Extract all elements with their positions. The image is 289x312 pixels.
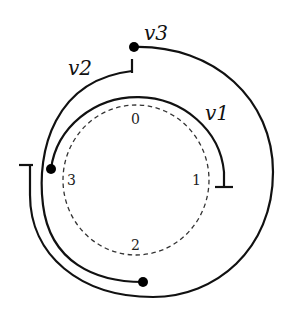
v3-start-dot bbox=[129, 42, 139, 52]
v3-label: v3 bbox=[144, 21, 168, 45]
ring-label-0: 0 bbox=[131, 111, 140, 127]
v2-label: v2 bbox=[68, 56, 92, 80]
circular-interval-diagram: 0 1 2 3 v1 v2 v3 bbox=[0, 0, 289, 312]
dashed-ring bbox=[63, 105, 209, 255]
ring-label-1: 1 bbox=[192, 172, 201, 188]
v1-start-dot bbox=[46, 164, 56, 174]
interval-v3: v3 bbox=[19, 21, 273, 297]
v2-start-dot bbox=[138, 277, 148, 287]
ring-label-2: 2 bbox=[131, 237, 140, 253]
v1-label: v1 bbox=[205, 101, 229, 125]
ring-label-3: 3 bbox=[67, 172, 76, 188]
